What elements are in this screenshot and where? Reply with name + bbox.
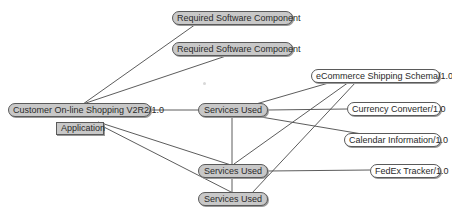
edge-services3-ecommerce [252, 82, 356, 193]
node-calendar-information[interactable]: Calendar Information/1.0 [344, 133, 441, 147]
edge-services2-ecommerce [234, 82, 349, 164]
edge-customer-req1 [83, 24, 196, 104]
node-customer-online-shopping[interactable]: Customer On-line Shopping V2R2/1.0 [8, 103, 151, 117]
node-currency-converter[interactable]: Currency Converter/1.0 [347, 102, 441, 116]
node-services-used-1[interactable]: Services Used [198, 103, 268, 117]
node-services-used-3[interactable]: Services Used [198, 192, 268, 206]
application-label-box: Application [56, 122, 104, 135]
edge-services1-calendar [255, 116, 362, 134]
node-required-software-component-1[interactable]: Required Software Component [172, 11, 293, 25]
node-ecommerce-shipping-schema[interactable]: eCommerce Shipping Schema/1.0 [311, 69, 440, 83]
edge-customer-req2 [83, 55, 229, 104]
edge-services2-fedex [268, 170, 370, 171]
node-fedex-tracker[interactable]: FedEx Tracker/1.0 [370, 164, 441, 178]
node-required-software-component-2[interactable]: Required Software Component [172, 42, 293, 56]
edge-customer-services3 [98, 124, 233, 193]
edge-services1-currency [268, 109, 347, 110]
node-services-used-2[interactable]: Services Used [198, 164, 268, 178]
edge-services1-ecommerce [256, 82, 332, 104]
edge-customer-services2 [98, 122, 231, 165]
speck-artifact [203, 82, 206, 85]
